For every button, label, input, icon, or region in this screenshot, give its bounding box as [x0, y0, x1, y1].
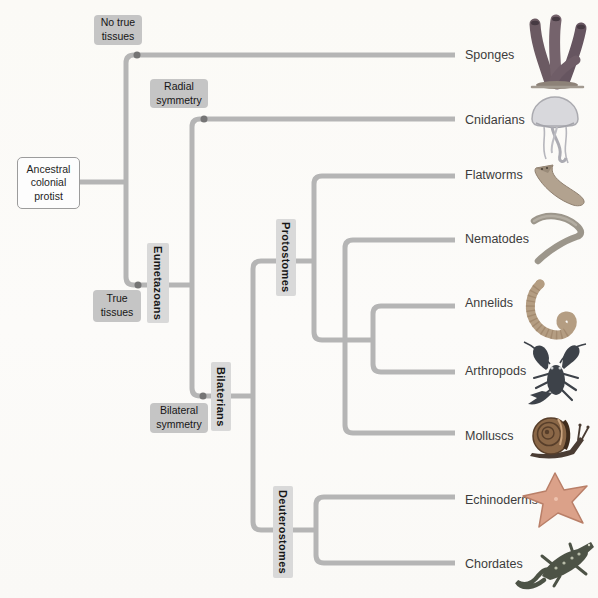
- nematode-illustration: [524, 211, 590, 273]
- echinoderms-chordates-branch: [316, 497, 455, 563]
- flatworm-illustration: [526, 163, 588, 213]
- taxon-label-annelids: Annelids: [465, 296, 513, 312]
- radial-symmetry-node: [201, 116, 208, 123]
- trait-label-no-true-tissues: No true tissues: [94, 15, 142, 45]
- snail-illustration: [522, 413, 596, 467]
- no-true-tissues-node: [134, 52, 141, 59]
- ancestral-protist-box: Ancestral colonial protist: [17, 157, 80, 209]
- crayfish-illustration: [518, 338, 596, 414]
- animal-phylogeny-figure: Ancestral colonial protist No true tissu…: [0, 0, 598, 598]
- trait-label-radial-symmetry: Radial symmetry: [150, 79, 208, 108]
- taxon-label-sponges: Sponges: [465, 48, 514, 64]
- sea-star-illustration: [519, 471, 597, 533]
- flatworms-branch: [314, 176, 455, 340]
- bilateral-symmetry-node: [200, 393, 207, 400]
- jellyfish-illustration: [524, 93, 586, 171]
- cnidarians-branch: [192, 119, 455, 396]
- sponge-illustration: [520, 12, 596, 94]
- annelids-arthropods-branch: [373, 306, 455, 372]
- lizard-illustration: [512, 534, 596, 598]
- nematodes-molluscs-branch: [345, 240, 455, 433]
- taxon-label-nematodes: Nematodes: [465, 232, 529, 248]
- taxon-label-molluscs: Molluscs: [465, 429, 514, 445]
- clade-label-bilaterians: Bilaterians: [211, 362, 231, 431]
- taxon-label-arthropods: Arthropods: [465, 364, 526, 380]
- clade-label-protostomes: Protostomes: [276, 219, 296, 296]
- trait-label-bilateral-symmetry: Bilateral symmetry: [150, 403, 208, 433]
- taxon-label-cnidarians: Cnidarians: [465, 113, 525, 129]
- true-tissues-node: [135, 282, 142, 289]
- clade-label-deuterostomes: Deuterostomes: [273, 486, 293, 578]
- clade-label-eumetazoans: Eumetazoans: [147, 243, 169, 323]
- trait-label-true-tissues: True tissues: [93, 290, 141, 322]
- taxon-label-flatworms: Flatworms: [465, 168, 523, 184]
